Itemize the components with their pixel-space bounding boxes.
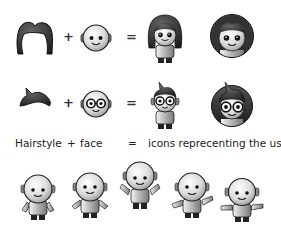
plain-face-icon: [80, 22, 112, 54]
legend-plus-label: +: [67, 138, 76, 149]
base-figure-arms-down-icon: [16, 172, 60, 222]
plus-sign: +: [63, 96, 74, 109]
equals-sign: =: [126, 30, 137, 43]
base-figure-arms-wide-icon: [168, 170, 216, 220]
base-figure-arms-up-icon: [118, 160, 162, 212]
girl-avatar-figure-icon: [145, 14, 185, 64]
glasses-face-icon: [80, 88, 112, 120]
boy-glasses-avatar-figure-icon: [145, 80, 185, 130]
long-hair-icon: [14, 20, 54, 56]
base-figure-arms-out-icon: [68, 170, 112, 220]
plus-sign: +: [63, 30, 74, 43]
legend-hairstyle-label: Hairstyle: [15, 138, 62, 149]
spiky-hair-icon: [18, 86, 52, 110]
legend-face-label: face: [80, 138, 102, 149]
legend-result-label: icons reprecenting the user: [148, 138, 281, 149]
boy-glasses-avatar-badge-icon: [208, 80, 256, 128]
equals-sign: =: [126, 96, 137, 109]
base-figure-arms-flat-icon: [218, 176, 266, 224]
legend-equals-label: =: [128, 138, 137, 149]
girl-avatar-badge-icon: [208, 12, 256, 60]
